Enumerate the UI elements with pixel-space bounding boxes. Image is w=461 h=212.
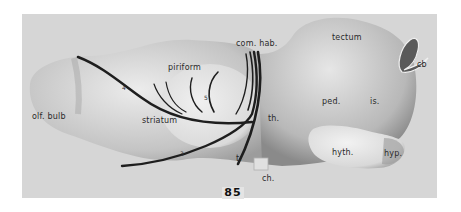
tract-number-5: 5: [204, 94, 208, 101]
label-ped: ped.: [322, 97, 340, 106]
figure-plate: olf. bulb piriform striatum com. hab. te…: [22, 14, 437, 198]
label-cb: cb: [417, 60, 427, 69]
label-com-hab: com. hab.: [236, 39, 278, 48]
label-hyp: hyp.: [384, 149, 402, 158]
label-piriform: piriform: [168, 63, 201, 72]
label-th: th.: [268, 114, 279, 123]
label-striatum: striatum: [142, 116, 177, 125]
label-hyth: hyth.: [332, 148, 354, 157]
label-olf-bulb: olf. bulb: [32, 112, 66, 121]
label-tectum: tectum: [332, 33, 362, 42]
label-t: t.: [236, 154, 242, 163]
tract-number-3: 3: [180, 150, 184, 157]
label-ch: ch.: [262, 174, 275, 183]
tract-number-4: 4: [122, 84, 126, 91]
brain-model-illustration: [22, 14, 437, 198]
label-is: is.: [370, 97, 380, 106]
figure-number: 85: [222, 187, 244, 199]
